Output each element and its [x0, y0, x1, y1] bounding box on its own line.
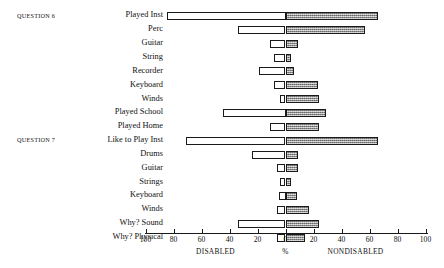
x-axis-tick-label: 20	[301, 236, 327, 244]
bar-segment-disabled	[259, 67, 286, 75]
x-axis-tick	[146, 229, 147, 233]
x-axis-tick	[258, 229, 259, 233]
bar-segment-nondisabled	[286, 137, 378, 145]
bar-row	[0, 67, 444, 75]
x-axis-tick	[342, 229, 343, 233]
x-axis-tick	[370, 229, 371, 233]
bar-row	[0, 26, 444, 34]
diverging-bar-chart: QUESTION 6 QUESTION 7 Played InstPercGui…	[0, 0, 444, 268]
axis-caption-percent: %	[271, 248, 301, 256]
bar-segment-nondisabled	[286, 109, 327, 117]
bar-row	[0, 81, 444, 89]
axis-caption-disabled: DISABLED	[171, 248, 261, 256]
bar-segment-nondisabled	[286, 178, 292, 186]
x-axis-tick-label: 0	[273, 236, 299, 244]
bar-segment-nondisabled	[286, 206, 310, 214]
bar-segment-nondisabled	[286, 67, 294, 75]
x-axis-tick-label: 100	[413, 236, 439, 244]
axis-caption-nondisabled: NONDISABLED	[306, 248, 406, 256]
bar-segment-disabled	[238, 220, 286, 228]
bar-segment-disabled	[167, 12, 286, 20]
bar-segment-nondisabled	[286, 151, 299, 159]
bar-segment-nondisabled	[286, 40, 299, 48]
bar-segment-disabled	[223, 109, 286, 117]
bar-segment-disabled	[277, 206, 285, 214]
x-axis-tick-label: 40	[329, 236, 355, 244]
x-axis-tick	[286, 229, 287, 233]
bar-segment-disabled	[270, 123, 285, 131]
bar-row	[0, 109, 444, 117]
bar-segment-nondisabled	[286, 81, 318, 89]
bar-segment-nondisabled	[286, 192, 297, 200]
x-axis-tick-label: 20	[245, 236, 271, 244]
bar-row	[0, 164, 444, 172]
bar-row	[0, 220, 444, 228]
x-axis-tick	[314, 229, 315, 233]
bar-segment-disabled	[238, 26, 286, 34]
bar-row	[0, 54, 444, 62]
x-axis-tick-label: 80	[161, 236, 187, 244]
x-axis-tick	[426, 229, 427, 233]
bar-row	[0, 95, 444, 103]
bar-segment-nondisabled	[286, 95, 320, 103]
x-axis-tick-label: 80	[385, 236, 411, 244]
bar-segment-nondisabled	[286, 54, 292, 62]
x-axis-tick-label: 100	[133, 236, 159, 244]
x-axis-tick-label: 60	[189, 236, 215, 244]
x-axis-tick-label: 60	[357, 236, 383, 244]
bar-row	[0, 178, 444, 186]
bar-row	[0, 151, 444, 159]
bar-row	[0, 137, 444, 145]
bar-segment-nondisabled	[286, 123, 320, 131]
x-axis-line	[145, 233, 428, 234]
bar-segment-disabled	[279, 192, 286, 200]
bar-segment-disabled	[274, 54, 285, 62]
bar-row	[0, 40, 444, 48]
bar-row	[0, 123, 444, 131]
x-axis-tick	[230, 229, 231, 233]
bar-row	[0, 12, 444, 20]
bar-segment-disabled	[270, 40, 285, 48]
bar-row	[0, 192, 444, 200]
x-axis-tick	[398, 229, 399, 233]
bar-segment-disabled	[277, 164, 285, 172]
bar-segment-disabled	[274, 81, 285, 89]
bar-segment-disabled	[186, 137, 285, 145]
bar-segment-disabled	[252, 151, 286, 159]
x-axis-tick	[202, 229, 203, 233]
bar-segment-nondisabled	[286, 12, 378, 20]
x-axis-tick-label: 40	[217, 236, 243, 244]
bar-row	[0, 206, 444, 214]
x-axis-tick	[174, 229, 175, 233]
bar-segment-nondisabled	[286, 26, 366, 34]
bar-segment-nondisabled	[286, 164, 299, 172]
bar-segment-nondisabled	[286, 220, 320, 228]
